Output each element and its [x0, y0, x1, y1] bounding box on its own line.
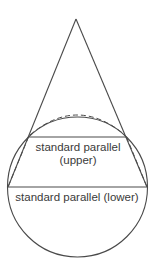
- lower-parallel-label: standard parallel (lower): [15, 191, 139, 203]
- upper-parallel-label-line2: (upper): [59, 154, 96, 166]
- secant-cone-diagram: standard parallel (upper) standard paral…: [0, 0, 158, 270]
- dashed-left-connector: [8, 137, 29, 187]
- upper-parallel-label-line1: standard parallel: [35, 141, 120, 153]
